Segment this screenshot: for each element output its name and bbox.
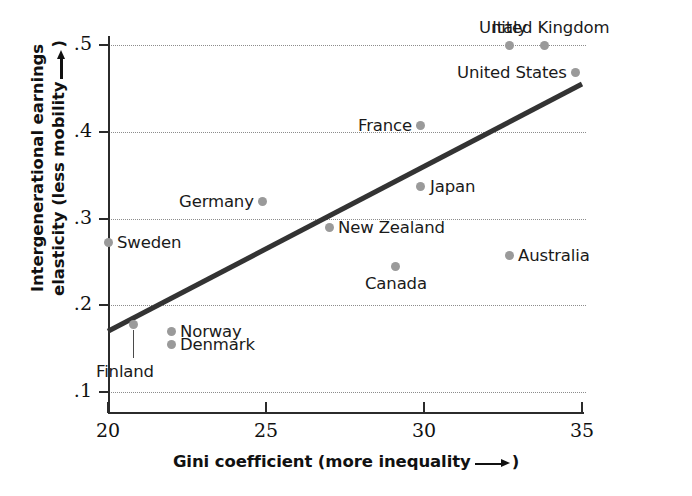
x-tick-30 bbox=[423, 402, 425, 413]
point-label-france: France bbox=[358, 116, 412, 135]
x-tick-label-25: 25 bbox=[236, 419, 296, 441]
point-label-united-states: United States bbox=[457, 63, 567, 82]
y-tick-.5 bbox=[99, 44, 109, 46]
y-tick-.4 bbox=[99, 131, 109, 133]
chart-figure: Intergenerational earnings elasticity (l… bbox=[0, 0, 692, 496]
data-point-canada[interactable] bbox=[391, 262, 400, 271]
data-point-norway[interactable] bbox=[167, 327, 176, 336]
data-point-new-zealand[interactable] bbox=[325, 223, 334, 232]
y-tick-label-.3: .3 bbox=[44, 206, 92, 228]
point-label-australia: Australia bbox=[518, 246, 590, 265]
x-tick-label-20: 20 bbox=[78, 419, 138, 441]
y-tick-.1 bbox=[99, 391, 109, 393]
data-point-finland[interactable] bbox=[129, 320, 138, 329]
data-point-germany[interactable] bbox=[258, 197, 267, 206]
point-label-germany: Germany bbox=[179, 192, 254, 211]
y-tick-label-.1: .1 bbox=[44, 379, 92, 401]
data-point-australia[interactable] bbox=[505, 251, 514, 260]
x-tick-label-35: 35 bbox=[552, 419, 612, 441]
point-label-japan: Japan bbox=[430, 177, 475, 196]
point-label-sweden: Sweden bbox=[117, 233, 181, 252]
point-label-canada: Canada bbox=[365, 274, 427, 293]
gridline-y-.1 bbox=[108, 392, 586, 393]
point-label-finland: Finland bbox=[96, 362, 154, 381]
leader-line-finland bbox=[133, 330, 134, 358]
data-point-italy[interactable] bbox=[505, 41, 514, 50]
data-point-united-states[interactable] bbox=[571, 68, 580, 77]
point-label-denmark: Denmark bbox=[180, 335, 255, 354]
y-tick-label-.2: .2 bbox=[44, 292, 92, 314]
y-tick-.3 bbox=[99, 218, 109, 220]
data-point-united-kingdom[interactable] bbox=[540, 41, 549, 50]
y-tick-label-.5: .5 bbox=[44, 32, 92, 54]
x-tick-20 bbox=[107, 402, 109, 413]
point-label-united-kingdom: United Kingdom bbox=[479, 18, 609, 37]
x-tick-label-30: 30 bbox=[394, 419, 454, 441]
data-point-sweden[interactable] bbox=[104, 238, 113, 247]
gridline-y-.2 bbox=[108, 305, 586, 306]
data-point-france[interactable] bbox=[416, 121, 425, 130]
x-tick-35 bbox=[581, 402, 583, 413]
gridline-y-.4 bbox=[108, 132, 586, 133]
point-label-new-zealand: New Zealand bbox=[338, 218, 445, 237]
y-tick-.2 bbox=[99, 304, 109, 306]
data-point-japan[interactable] bbox=[416, 182, 425, 191]
y-axis-spine bbox=[108, 36, 110, 412]
plot-area: .1.2.3.4.520253035SwedenFinlandNorwayDen… bbox=[0, 0, 692, 496]
gridline-y-.5 bbox=[108, 45, 586, 46]
y-tick-label-.4: .4 bbox=[44, 119, 92, 141]
x-tick-25 bbox=[265, 402, 267, 413]
x-axis-spine bbox=[108, 412, 584, 414]
data-point-denmark[interactable] bbox=[167, 340, 176, 349]
